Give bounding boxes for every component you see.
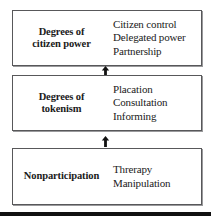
rung-item: Placation	[113, 83, 200, 97]
tier-box-nonparticipation: Nonparticipation Threrapy Manipulation	[12, 148, 202, 205]
rung-item: Informing	[113, 110, 200, 124]
tier-label-line-1: Degrees of	[15, 26, 108, 39]
tier-rungs-citizen-power: Citizen control Delegated power Partners…	[110, 18, 201, 59]
rung-item: Delegated power	[113, 31, 200, 45]
tier-label-line-1: Degrees of	[15, 91, 108, 104]
rung-item: Threrapy	[113, 163, 200, 177]
rung-item: Consultation	[113, 96, 200, 110]
tier-rungs-nonparticipation: Threrapy Manipulation	[110, 163, 201, 190]
tier-label-line-2: citizen power	[15, 38, 108, 51]
ladder-of-citizen-participation-diagram: Degrees of citizen power Citizen control…	[0, 0, 211, 218]
tier-label-nonparticipation: Nonparticipation	[13, 170, 110, 183]
rung-item: Citizen control	[113, 18, 200, 32]
tier-rungs-tokenism: Placation Consultation Informing	[110, 83, 201, 124]
bottom-rule	[0, 212, 211, 216]
rung-item: Manipulation	[113, 177, 200, 191]
tier-label-line-1: Nonparticipation	[15, 170, 108, 183]
tier-box-citizen-power: Degrees of citizen power Citizen control…	[12, 10, 202, 66]
tier-box-tokenism: Degrees of tokenism Placation Consultati…	[12, 75, 202, 131]
tier-label-line-2: tokenism	[15, 103, 108, 116]
tier-label-citizen-power: Degrees of citizen power	[13, 26, 110, 51]
tier-label-tokenism: Degrees of tokenism	[13, 91, 110, 116]
up-arrow-icon	[101, 136, 110, 147]
rung-item: Partnership	[113, 45, 200, 59]
